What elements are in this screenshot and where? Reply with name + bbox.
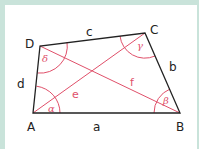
side-label-b: b	[169, 60, 177, 74]
diagonal-label-e: e	[72, 88, 79, 101]
quadrilateral-diagram: A B C D a b c d e f α β γ δ	[0, 0, 199, 149]
diagonal-label-f: f	[130, 76, 135, 89]
angle-label-gamma: γ	[137, 40, 143, 51]
side-label-c: c	[86, 25, 93, 39]
angle-label-beta: β	[162, 95, 169, 106]
diagonal-f	[40, 46, 180, 113]
quadrilateral-sides	[33, 33, 180, 113]
angle-label-delta: δ	[42, 53, 48, 64]
vertex-label-c: C	[150, 23, 158, 37]
vertex-label-d: D	[25, 37, 34, 51]
angle-label-alpha: α	[48, 103, 55, 114]
side-label-a: a	[93, 120, 100, 134]
vertex-label-a: A	[27, 120, 36, 134]
side-label-d: d	[17, 77, 25, 91]
vertex-label-b: B	[176, 120, 184, 134]
